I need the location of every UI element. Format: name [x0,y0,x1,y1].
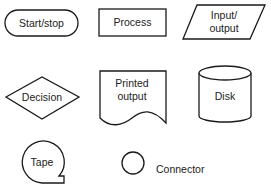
printed-output-symbol: Printed output [100,71,166,125]
input-output-label-line2: output [209,22,238,34]
printed-output-label-line1: Printed [115,77,148,89]
input-output-label-line1: Input/ [211,9,237,21]
start-stop-label: Start/stop [19,17,64,29]
cylinder-top-shape [199,66,251,80]
connector-symbol: Connector [122,152,205,175]
circle-shape [122,152,144,174]
disk-symbol: Disk [199,66,251,122]
flowchart-symbols-canvas: Start/stop Process Input/ output Decisio… [0,0,271,191]
tape-symbol: Tape [22,141,64,183]
disk-label: Disk [215,90,236,102]
printed-output-label-line2: output [117,90,146,102]
start-stop-symbol: Start/stop [5,10,78,36]
process-label: Process [114,16,152,28]
decision-symbol: Decision [6,77,79,119]
process-symbol: Process [99,9,166,36]
tape-label: Tape [31,156,54,168]
connector-label: Connector [156,163,205,175]
input-output-symbol: Input/ output [183,5,265,39]
decision-label: Decision [22,91,62,103]
